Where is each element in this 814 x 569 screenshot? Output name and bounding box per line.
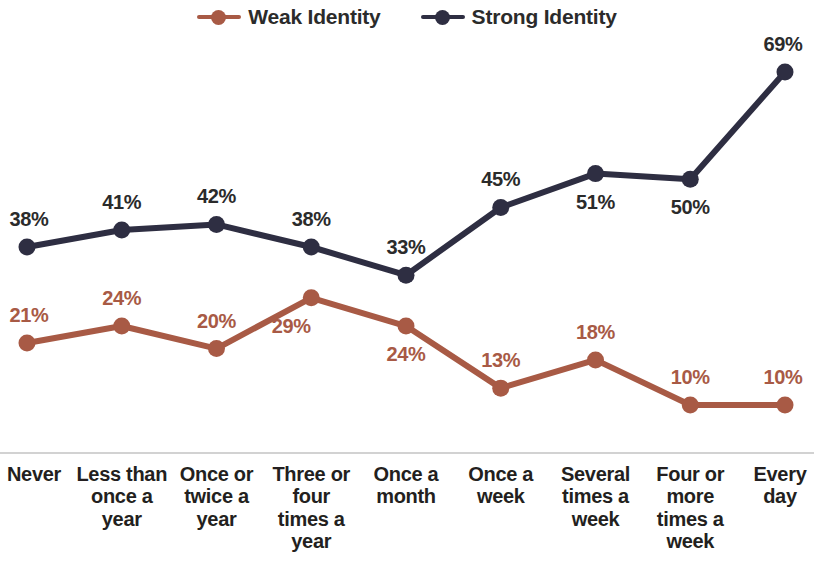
data-point-marker [492, 380, 509, 397]
x-axis-label-5: Once a week [449, 463, 553, 508]
x-axis-category-labels: NeverLess than once a yearOnce or twice … [0, 463, 814, 569]
x-axis-label-3: Three or four times a year [259, 463, 363, 553]
data-point-marker [303, 289, 320, 306]
x-axis-label-1: Less than once a year [70, 463, 174, 530]
data-point-marker [113, 318, 130, 335]
data-point-marker [492, 199, 509, 216]
data-point-marker [19, 239, 36, 256]
x-axis-label-8: Every day [728, 463, 814, 508]
x-axis-line [0, 452, 814, 454]
series-line-weak-identity [27, 298, 785, 405]
data-point-marker [398, 267, 415, 284]
data-point-marker [208, 340, 225, 357]
data-point-marker [682, 397, 699, 414]
data-point-marker [682, 171, 699, 188]
line-chart-plot-area: 21%24%20%29%24%13%18%10%10%38%41%42%38%3… [0, 0, 814, 455]
chart-lines-svg [0, 0, 814, 455]
x-axis-label-7: Four or more times a week [638, 463, 742, 553]
data-point-marker [777, 397, 794, 414]
data-point-marker [398, 318, 415, 335]
data-point-marker [777, 64, 794, 81]
data-point-marker [113, 222, 130, 239]
x-axis-label-6: Several times a week [544, 463, 648, 530]
series-line-strong-identity [27, 72, 785, 275]
x-axis-label-2: Once or twice a year [165, 463, 269, 530]
data-point-marker [208, 216, 225, 233]
x-axis-label-4: Once a month [354, 463, 458, 508]
data-point-marker [587, 351, 604, 368]
data-point-marker [587, 165, 604, 182]
data-point-marker [303, 239, 320, 256]
data-point-marker [19, 334, 36, 351]
